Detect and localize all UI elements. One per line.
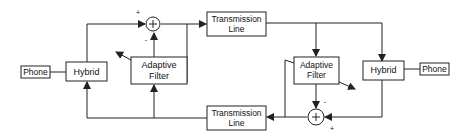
tline-bottom-line1: Transmission (211, 108, 261, 118)
phone-left-label: Phone (23, 67, 48, 77)
afilter-right-line1: Adaptive (300, 60, 333, 70)
tline-bottom-line2: Line (228, 118, 244, 128)
afilter-right-line2: Filter (307, 70, 326, 80)
echo-cancellation-diagram: Phone Hybrid Transmission Line Adaptive … (0, 0, 468, 140)
sign-plus-top: + (136, 9, 140, 16)
edge-error-feedback-right (285, 60, 294, 117)
tline-top-line2: Line (228, 24, 244, 34)
edge-hybrid-to-sum-top (87, 24, 145, 62)
adapt-arrow-left (116, 52, 131, 60)
edge-hybrid-to-sum-bottom (325, 80, 382, 117)
hybrid-right-label: Hybrid (370, 65, 396, 75)
sign-plus-bottom: + (330, 125, 334, 132)
afilter-left-line1: Adaptive (141, 60, 176, 70)
adapt-arrow-right (339, 82, 355, 89)
afilter-left-line2: Filter (149, 71, 169, 81)
tline-top-line1: Transmission (211, 14, 261, 24)
hybrid-left-label: Hybrid (73, 67, 99, 77)
phone-right-label: Phone (422, 64, 447, 74)
sign-minus-bottom: - (324, 98, 327, 105)
sign-minus-top: - (145, 36, 148, 43)
